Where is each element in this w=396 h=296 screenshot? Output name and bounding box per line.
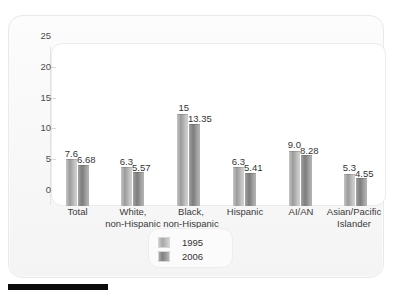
legend-label-2006: 2006 bbox=[182, 250, 203, 263]
bar-label-2006-white-non-hispanic: 5.57 bbox=[132, 163, 158, 173]
bar-label-2006-black-non-hispanic: 13.35 bbox=[188, 114, 218, 124]
bar-label-2006-hispanic: 5.41 bbox=[244, 163, 270, 173]
x-label-hispanic: Hispanic bbox=[215, 206, 275, 218]
bar-2006-white-non-hispanic[interactable] bbox=[133, 172, 144, 206]
x-label-asian-pacific-islander: Asian/Pacific Islander bbox=[321, 206, 387, 229]
bar-2006-ai-an[interactable] bbox=[301, 155, 312, 206]
bottom-black-rule bbox=[8, 284, 108, 290]
bar-2006-total[interactable] bbox=[78, 165, 89, 206]
bar-label-1995-hispanic: 6.3 bbox=[223, 157, 245, 167]
bar-label-1995-total: 7.6 bbox=[56, 149, 78, 159]
bar-1995-black-non-hispanic[interactable] bbox=[177, 114, 188, 206]
bar-1995-hispanic[interactable] bbox=[233, 167, 244, 206]
legend-swatch-1995-icon bbox=[158, 237, 170, 248]
legend-swatch-2006-icon bbox=[158, 251, 170, 262]
bar-label-1995-white-non-hispanic: 6.3 bbox=[111, 157, 133, 167]
bar-1995-white-non-hispanic[interactable] bbox=[121, 167, 132, 206]
bar-1995-asian-pacific-islander[interactable] bbox=[344, 174, 355, 207]
bar-2006-hispanic[interactable] bbox=[245, 173, 256, 206]
bar-2006-black-non-hispanic[interactable] bbox=[189, 124, 200, 206]
bar-label-1995-ai-an: 9.0 bbox=[279, 140, 301, 150]
bar-label-2006-asian-pacific-islander: 4.55 bbox=[355, 169, 381, 179]
bar-1995-total[interactable] bbox=[66, 159, 77, 206]
chart-legend: 1995 2006 bbox=[148, 228, 233, 268]
x-label-ai-an: AI/AN bbox=[275, 206, 327, 218]
bar-1995-ai-an[interactable] bbox=[289, 151, 300, 206]
bar-label-1995-asian-pacific-islander: 5.3 bbox=[334, 163, 356, 173]
bar-label-2006-total: 6.68 bbox=[77, 155, 103, 165]
legend-label-1995: 1995 bbox=[182, 236, 203, 249]
bar-label-1995-black-non-hispanic: 15 bbox=[167, 103, 189, 113]
bar-label-2006-ai-an: 8.28 bbox=[300, 146, 326, 156]
bar-2006-asian-pacific-islander[interactable] bbox=[356, 178, 367, 206]
